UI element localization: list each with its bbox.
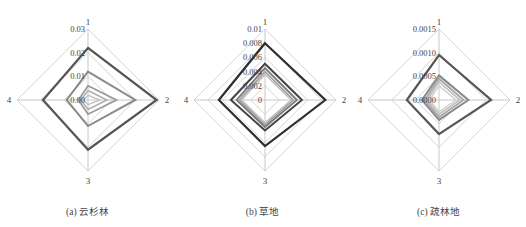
axis-label-1: 1 [86,17,91,27]
grid [194,29,336,171]
tick-label: 0.0000 [413,95,436,105]
caption-a: (a) 云杉林 [0,204,175,218]
series-s1 [43,48,157,150]
series-group [43,48,157,150]
tick-label: 0.0005 [413,71,436,81]
axis-label-3: 3 [86,176,91,186]
tick-label: 0.01 [247,24,262,34]
tick-label: 0.006 [243,52,262,62]
tick-label: 0.002 [243,81,262,91]
tick-label: 0.00 [70,95,85,105]
axis-label-2: 2 [342,95,347,105]
axis-label-4: 4 [358,95,363,105]
axis-label-1: 1 [437,17,442,27]
tick-label: 0.008 [243,38,262,48]
radar-chart-a: 0.000.010.020.031234 [0,0,175,200]
axis-label-4: 4 [7,95,12,105]
radar-chart-c: 0.00000.00050.00100.00151234 [351,0,526,200]
radar-panel-a: 0.000.010.020.031234 (a) 云杉林 [0,0,175,227]
caption-b: (b) 草地 [175,204,350,218]
series-s4 [239,72,293,125]
grid [368,29,510,171]
tick-label: 0.03 [70,24,85,34]
axis-label-2: 2 [165,95,170,105]
radar-panel-b: 00.0020.0040.0060.0080.011234 (b) 草地 [175,0,350,227]
tick-label: 0.02 [70,48,85,58]
tick-label: 0.004 [243,67,263,77]
tick-label: 0.0015 [413,24,436,34]
axis-label-1: 1 [263,17,268,27]
tick-label: 0.0010 [413,48,436,58]
radar-chart-b: 00.0020.0040.0060.0080.011234 [175,0,350,200]
caption-c: (c) 疏林地 [351,204,526,218]
tick-label: 0 [258,95,262,105]
axis-label-3: 3 [437,176,442,186]
axis-label-3: 3 [263,176,268,186]
radar-panel-c: 0.00000.00050.00100.00151234 (c) 疏林地 [351,0,526,227]
tick-label: 0.01 [70,71,85,81]
axis-label-4: 4 [184,95,189,105]
axis-label-2: 2 [516,95,521,105]
